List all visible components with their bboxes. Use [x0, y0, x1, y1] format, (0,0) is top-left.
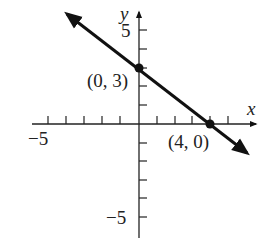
point-x-intercept: [206, 120, 215, 129]
point-y-intercept: [135, 64, 144, 73]
x-tick-label-neg5: −5: [28, 128, 48, 149]
x-axis-label: x: [246, 98, 256, 119]
point-label-0-3: (0, 3): [87, 70, 128, 92]
y-tick-label-neg5: −5: [106, 207, 126, 228]
coordinate-plane: y x 5 −5 −5 (0, 3) (4, 0): [0, 0, 265, 245]
y-tick-label-5: 5: [121, 20, 131, 41]
point-label-4-0: (4, 0): [168, 131, 209, 153]
graph-figure: y x 5 −5 −5 (0, 3) (4, 0): [0, 0, 265, 245]
